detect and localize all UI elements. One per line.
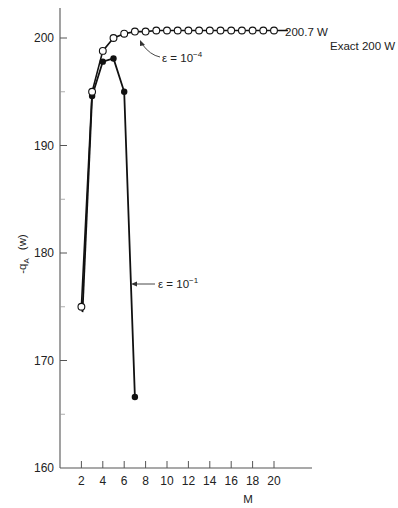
x-tick-label: 20 bbox=[267, 474, 281, 488]
eps4-arrow bbox=[142, 44, 160, 57]
x-tick-label: 18 bbox=[246, 474, 260, 488]
eps4-line bbox=[81, 31, 288, 307]
x-axis-label: M bbox=[243, 493, 253, 505]
eps1-point bbox=[110, 55, 116, 61]
y-tick-label: 190 bbox=[34, 139, 54, 153]
eps4-point bbox=[110, 35, 117, 42]
y-tick-label: 200 bbox=[34, 31, 54, 45]
eps4-point bbox=[249, 27, 256, 34]
eps4-arrowhead bbox=[140, 40, 145, 46]
eps4-point bbox=[99, 48, 106, 55]
eps4-point bbox=[260, 27, 267, 34]
eps4-point bbox=[217, 27, 224, 34]
eps4-point bbox=[239, 27, 246, 34]
series-layer bbox=[78, 27, 288, 400]
y-tick-label: 160 bbox=[34, 461, 54, 475]
eps4-point bbox=[121, 30, 128, 37]
eps4-point bbox=[89, 88, 96, 95]
eps4-point bbox=[228, 27, 235, 34]
annotations: -qA(w) M 200.7 W Exact 200 W ε = 10−4 ε … bbox=[16, 26, 395, 505]
eps1-arrowhead bbox=[131, 282, 137, 287]
eps4-point bbox=[185, 27, 192, 34]
eps4-point bbox=[153, 27, 160, 34]
x-tick-label: 8 bbox=[142, 474, 149, 488]
x-tick-label: 6 bbox=[121, 474, 128, 488]
y-tick-label: 170 bbox=[34, 354, 54, 368]
x-tick-label: 12 bbox=[182, 474, 196, 488]
eps4-point bbox=[164, 27, 171, 34]
x-tick-label: 14 bbox=[203, 474, 217, 488]
eps4-label: ε = 10−4 bbox=[162, 50, 203, 64]
axes: 1601701801902002468101214161820 bbox=[34, 8, 312, 488]
chart: 1601701801902002468101214161820 -qA(w) M… bbox=[0, 0, 398, 508]
x-tick-label: 10 bbox=[160, 474, 174, 488]
eps4-point bbox=[206, 27, 213, 34]
eps1-point bbox=[121, 89, 127, 95]
eps4-point bbox=[271, 27, 278, 34]
exact-value-label: Exact 200 W bbox=[330, 40, 395, 52]
eps4-point bbox=[174, 27, 181, 34]
y-tick-label: 180 bbox=[34, 246, 54, 260]
eps1-label: ε = 10−1 bbox=[158, 276, 199, 290]
eps4-point bbox=[196, 27, 203, 34]
x-tick-label: 16 bbox=[225, 474, 239, 488]
eps1-line bbox=[92, 58, 135, 397]
eps4-point bbox=[78, 303, 85, 310]
eps4-point bbox=[132, 28, 139, 35]
y-axis-label: -qA(w) bbox=[16, 234, 31, 274]
x-tick-label: 4 bbox=[99, 474, 106, 488]
converged-value-label: 200.7 W bbox=[285, 26, 328, 38]
eps1-point bbox=[132, 394, 138, 400]
eps4-point bbox=[142, 28, 149, 35]
x-tick-label: 2 bbox=[78, 474, 85, 488]
